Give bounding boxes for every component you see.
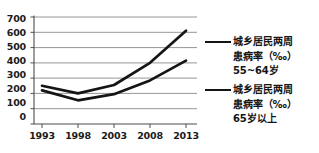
chart-legend: 城乡居民两周 患病率（‰） 55~64岁 城乡居民两周 患病率（‰） 65岁以上 [205,0,319,153]
chart-plot-svg [0,0,200,153]
legend-line-swatch-55-64 [205,41,231,43]
line-chart-figure: 700 600 500 400 300 200 100 0 1993 1998 … [0,0,319,153]
legend-line-swatch-65-plus [205,89,231,91]
series-line-65-plus [42,61,186,101]
plot-area: 700 600 500 400 300 200 100 0 1993 1998 … [0,0,200,153]
legend-label-65-plus: 城乡居民两周 患病率（‰） 65岁以上 [233,83,319,127]
x-axis-ticks [42,124,186,128]
legend-label-55-64: 城乡居民两周 患病率（‰） 55~64岁 [233,35,319,79]
series-line-55-64 [42,31,186,94]
